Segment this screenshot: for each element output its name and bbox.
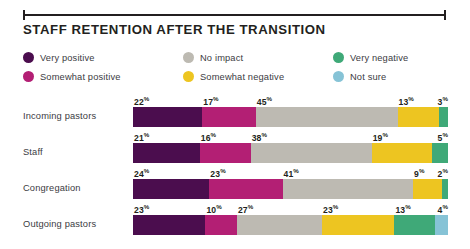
legend-column-1: No impactSomewhat negative	[183, 48, 284, 86]
value-label-layer: 22%17%45%13%3%	[133, 95, 448, 107]
percent-sign: %	[419, 167, 425, 174]
segment-value-number: 19	[373, 133, 383, 143]
percent-sign: %	[211, 131, 217, 138]
legend-item-no-impact[interactable]: No impact	[183, 48, 284, 67]
segment-value-label: 5%	[438, 131, 449, 143]
chart-page: STAFF RETENTION AFTER THE TRANSITION Ver…	[0, 0, 470, 249]
segment-value-number: 13	[395, 205, 405, 215]
chart-row: Outgoing pastors23%10%27%23%13%4%	[0, 203, 470, 236]
segment-value-number: 10	[206, 205, 216, 215]
segment-value-number: 23	[323, 205, 333, 215]
legend-item-label: Somewhat positive	[40, 72, 121, 82]
chart-title: STAFF RETENTION AFTER THE TRANSITION	[23, 22, 326, 37]
percent-sign: %	[248, 203, 254, 210]
legend-item-label: No impact	[200, 53, 243, 63]
bar-segment-somewhat-positive[interactable]	[200, 143, 251, 163]
segment-value-label: 17%	[203, 95, 218, 107]
bar-segment-very-negative[interactable]	[439, 107, 448, 127]
legend-item-label: Very negative	[350, 53, 408, 63]
segment-value-number: 27	[238, 205, 248, 215]
segment-value-label: 19%	[373, 131, 388, 143]
percent-sign: %	[405, 203, 411, 210]
segment-value-number: 16	[201, 133, 211, 143]
bar-segment-somewhat-negative[interactable]	[413, 179, 442, 199]
bar-segment-somewhat-positive[interactable]	[205, 215, 237, 235]
percent-sign: %	[144, 203, 150, 210]
bar-segment-no-impact[interactable]	[283, 179, 413, 199]
percent-sign: %	[408, 95, 414, 102]
segment-value-label: 27%	[238, 203, 253, 215]
legend-item-label: Not sure	[350, 72, 386, 82]
legend-item-somewhat-positive[interactable]: Somewhat positive	[23, 67, 121, 86]
percent-sign: %	[382, 131, 388, 138]
segment-value-label: 22%	[134, 95, 149, 107]
top-rule-divider	[23, 10, 446, 20]
percent-sign: %	[442, 131, 448, 138]
bar-segment-very-positive[interactable]	[133, 107, 202, 127]
segment-value-number: 21	[134, 133, 144, 143]
legend-item-not-sure[interactable]: Not sure	[333, 67, 408, 86]
segment-value-label: 4%	[438, 203, 449, 215]
segment-value-label: 23%	[323, 203, 338, 215]
segment-value-number: 41	[284, 169, 294, 179]
top-rule-cap-right	[444, 10, 446, 20]
bar-segment-somewhat-negative[interactable]	[322, 215, 394, 235]
percent-sign: %	[220, 167, 226, 174]
bar-segment-somewhat-negative[interactable]	[372, 143, 432, 163]
percent-sign: %	[144, 131, 150, 138]
segment-value-label: 10%	[206, 203, 221, 215]
bar-segment-very-negative[interactable]	[442, 179, 448, 199]
percent-sign: %	[293, 167, 299, 174]
category-label: Staff	[23, 147, 127, 157]
category-label: Outgoing pastors	[23, 219, 127, 229]
legend-dot-not-sure-icon	[333, 71, 344, 82]
segment-value-label: 16%	[201, 131, 216, 143]
legend-item-very-negative[interactable]: Very negative	[333, 48, 408, 67]
stacked-bar	[133, 179, 448, 199]
bar-segment-no-impact[interactable]	[256, 107, 398, 127]
chart-legend: Very positiveSomewhat positiveNo impactS…	[23, 48, 447, 86]
bar-segment-very-positive[interactable]	[133, 179, 209, 199]
stacked-bar	[133, 143, 448, 163]
bar-segment-not-sure[interactable]	[435, 215, 448, 235]
stacked-bar	[133, 107, 448, 127]
stacked-bar	[133, 215, 448, 235]
bar-segment-somewhat-negative[interactable]	[398, 107, 439, 127]
segment-value-label: 24%	[134, 167, 149, 179]
chart-row: Congregation24%23%41%9%2%	[0, 167, 470, 200]
legend-item-very-positive[interactable]: Very positive	[23, 48, 121, 67]
bar-segment-somewhat-positive[interactable]	[202, 107, 256, 127]
percent-sign: %	[267, 95, 273, 102]
legend-item-somewhat-negative[interactable]: Somewhat negative	[183, 67, 284, 86]
segment-value-label: 41%	[284, 167, 299, 179]
segment-value-label: 45%	[257, 95, 272, 107]
bar-segment-no-impact[interactable]	[237, 215, 322, 235]
legend-item-label: Very positive	[40, 53, 95, 63]
bar-segment-very-negative[interactable]	[432, 143, 448, 163]
percent-sign: %	[442, 167, 448, 174]
top-rule-line	[23, 14, 446, 16]
category-label: Incoming pastors	[23, 111, 127, 121]
value-label-layer: 23%10%27%23%13%4%	[133, 203, 448, 215]
legend-dot-no-impact-icon	[183, 52, 194, 63]
segment-value-number: 24	[134, 169, 144, 179]
segment-value-label: 38%	[252, 131, 267, 143]
segment-value-number: 23	[210, 169, 220, 179]
segment-value-label: 13%	[399, 95, 414, 107]
percent-sign: %	[261, 131, 267, 138]
segment-value-label: 23%	[210, 167, 225, 179]
bar-segment-very-positive[interactable]	[133, 143, 200, 163]
segment-value-number: 22	[134, 97, 144, 107]
segment-value-label: 2%	[438, 167, 449, 179]
bar-segment-somewhat-positive[interactable]	[209, 179, 282, 199]
bar-segment-very-positive[interactable]	[133, 215, 205, 235]
legend-dot-very-positive-icon	[23, 52, 34, 63]
percent-sign: %	[442, 203, 448, 210]
chart-plot-area: Incoming pastors22%17%45%13%3%Staff21%16…	[0, 95, 470, 249]
segment-value-number: 45	[257, 97, 267, 107]
bar-segment-no-impact[interactable]	[251, 143, 372, 163]
chart-row: Incoming pastors22%17%45%13%3%	[0, 95, 470, 128]
segment-value-label: 21%	[134, 131, 149, 143]
bar-segment-very-negative[interactable]	[394, 215, 435, 235]
segment-value-number: 23	[134, 205, 144, 215]
